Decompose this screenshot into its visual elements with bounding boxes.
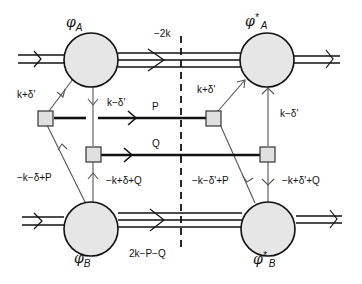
vertex-right-P: [206, 111, 221, 126]
P-line: [54, 111, 206, 125]
vertex-right-Q: [260, 147, 275, 162]
blob-phi-B: [64, 202, 118, 256]
diagram-canvas: φA φ*A φB φ*B −2k 2k−P−Q k+δ' k−δ' k+δ' …: [0, 0, 362, 284]
blob-phi-B-star: [241, 202, 295, 256]
vertex-left-Q: [86, 147, 101, 162]
label-left-upper: k+δ': [17, 89, 35, 100]
label-phi-A: φA: [66, 14, 83, 33]
label-right-upper: k+δ': [197, 84, 215, 95]
vertex-left-P: [38, 111, 53, 126]
label-left-lower-outer: −k−δ+P: [17, 172, 52, 183]
blob-phi-A: [64, 33, 118, 87]
label-left-inner: k−δ': [107, 97, 125, 108]
label-bottom-momentum: 2k−P−Q: [129, 248, 166, 259]
label-right-inner: k−δ': [280, 108, 298, 119]
label-Q: Q: [152, 138, 160, 149]
label-right-lower-inner: −k+δ'+Q: [282, 175, 320, 186]
label-top-momentum: −2k: [154, 28, 171, 39]
label-right-lower-outer: −k−δ'+P: [192, 175, 229, 186]
label-left-lower-inner: −k+δ+Q: [106, 175, 142, 186]
label-P: P: [152, 101, 159, 112]
internal-lines: [46, 79, 274, 204]
blob-phi-A-star: [240, 33, 294, 87]
label-phi-A-star: φ*A: [245, 12, 268, 31]
